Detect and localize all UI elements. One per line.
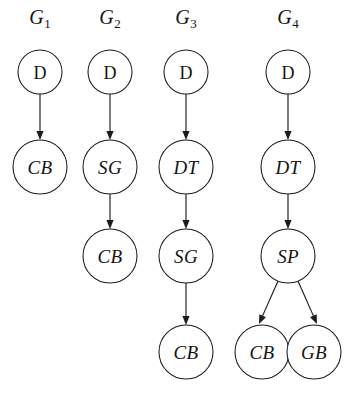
column-label-G4: G4 [277,6,299,31]
node-g3-d[interactable]: D [164,50,208,94]
node-g4-cb[interactable]: CB [235,325,289,379]
node-g3-dt[interactable]: DT [159,140,213,194]
node-g4-d[interactable]: D [266,50,310,94]
edges-layer [36,94,317,325]
node-label-g3-d: D [180,63,193,83]
node-label-g3-dt: DT [173,157,200,178]
node-label-g4-sp: SP [277,246,299,267]
edge-g3-d-to-g3-dt [182,94,189,140]
node-label-g3-cb: CB [174,342,199,363]
edge-g3-dt-to-g3-sg [182,194,189,229]
node-g2-cb[interactable]: CB [83,229,137,283]
node-g2-d[interactable]: D [88,50,132,94]
node-label-g4-dt: DT [275,157,302,178]
column-label-G2: G2 [99,6,120,31]
node-label-g2-cb: CB [98,246,123,267]
node-label-g3-sg: SG [174,246,198,267]
edge-g3-sg-to-g3-cb [182,283,189,325]
node-g3-sg[interactable]: SG [159,229,213,283]
node-label-g1-d: D [34,63,47,83]
node-label-g4-gb: GB [301,342,327,363]
node-label-g2-d: D [104,63,117,83]
edge-g4-sp-to-g4-cb [259,281,278,324]
node-g4-dt[interactable]: DT [261,140,315,194]
node-label-g4-cb: CB [250,342,275,363]
edge-g4-dt-to-g4-sp [284,194,291,229]
node-label-g1-cb: CB [28,157,53,178]
node-g1-cb[interactable]: CB [13,140,67,194]
node-g4-sp[interactable]: SP [261,229,315,283]
column-label-G3: G3 [175,6,196,31]
edge-g4-sp-to-g4-gb [298,281,317,324]
edge-g2-sg-to-g2-cb [106,194,113,229]
node-label-g2-sg: SG [98,157,122,178]
node-label-g4-d: D [282,63,295,83]
edge-g1-d-to-g1-cb [36,94,43,140]
edge-g2-d-to-g2-sg [106,94,113,140]
node-g3-cb[interactable]: CB [159,325,213,379]
graph-figure: DCBDSGCBDDTSGCBDDTSPCBGB G1G2G3G4 [0,0,359,395]
node-g4-gb[interactable]: GB [287,325,341,379]
column-label-G1: G1 [29,6,50,31]
graph-canvas: DCBDSGCBDDTSGCBDDTSPCBGB G1G2G3G4 [0,0,359,395]
node-g2-sg[interactable]: SG [83,140,137,194]
column-labels-layer: G1G2G3G4 [29,6,299,31]
node-g1-d[interactable]: D [18,50,62,94]
edge-g4-d-to-g4-dt [284,94,291,140]
nodes-layer: DCBDSGCBDDTSGCBDDTSPCBGB [13,50,341,379]
